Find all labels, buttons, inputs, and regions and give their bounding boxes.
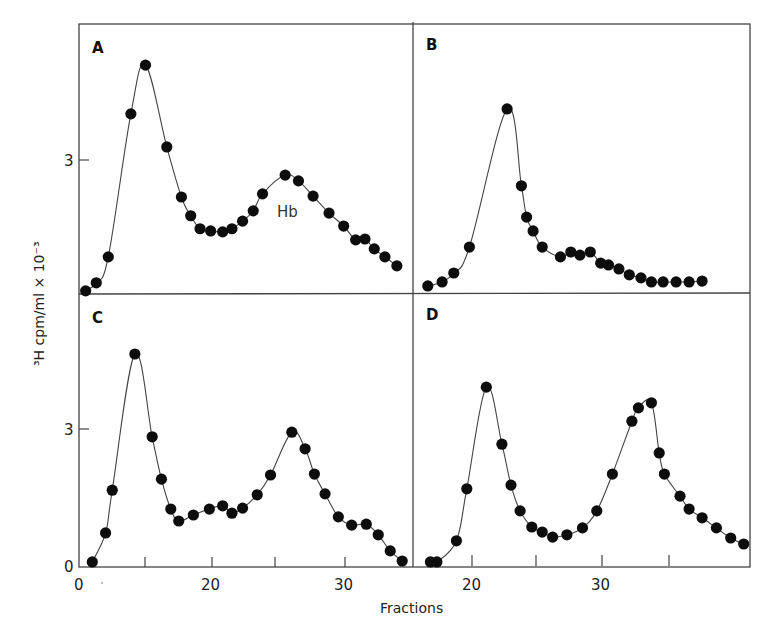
data-point	[204, 503, 215, 514]
data-point	[537, 241, 548, 252]
data-point	[379, 251, 390, 262]
data-point	[147, 431, 158, 442]
data-point	[684, 276, 695, 287]
data-point	[537, 526, 548, 537]
data-point	[140, 60, 151, 71]
x-tick-label-c-0: 0	[74, 576, 84, 594]
data-point	[338, 220, 349, 231]
data-point	[613, 263, 624, 274]
data-point	[481, 382, 492, 393]
data-point	[252, 489, 263, 500]
series-panel-b	[422, 103, 708, 291]
data-point	[658, 276, 669, 287]
data-point	[464, 241, 475, 252]
speck	[101, 582, 103, 584]
fitted-curve	[430, 386, 743, 563]
hb-annotation: Hb	[277, 203, 298, 221]
data-point	[359, 233, 370, 244]
data-point	[437, 276, 448, 287]
data-point	[697, 275, 708, 286]
data-point	[286, 427, 297, 438]
data-point	[100, 527, 111, 538]
data-point	[431, 556, 442, 567]
data-point	[684, 503, 695, 514]
data-point	[369, 243, 380, 254]
data-point	[505, 480, 516, 491]
data-point	[323, 207, 334, 218]
data-point	[574, 250, 585, 261]
y-tick-label-a-3: 3	[64, 152, 74, 170]
data-point	[711, 522, 722, 533]
data-point	[91, 277, 102, 288]
data-point	[103, 251, 114, 262]
x-tick-label-c-20: 20	[201, 576, 220, 594]
data-point	[603, 259, 614, 270]
series-panel-d	[425, 382, 750, 568]
data-point	[659, 468, 670, 479]
data-point	[176, 191, 187, 202]
data-point	[125, 108, 136, 119]
x-tick-label-c-30: 30	[334, 576, 353, 594]
x-tick-label-d-20: 20	[462, 576, 481, 594]
data-point	[161, 141, 172, 152]
data-point	[385, 545, 396, 556]
series-panel-c	[87, 348, 408, 567]
data-point	[461, 483, 472, 494]
data-point	[205, 225, 216, 236]
data-point	[80, 285, 91, 296]
data-point	[502, 103, 513, 114]
data-point	[293, 175, 304, 186]
data-point	[226, 508, 237, 519]
data-point	[185, 210, 196, 221]
data-point	[422, 280, 433, 291]
data-point	[626, 416, 637, 427]
data-point	[361, 519, 372, 530]
panel-label-d: D	[426, 306, 438, 324]
x-axis-title: Fractions	[380, 600, 443, 616]
data-point	[738, 538, 749, 549]
data-point	[307, 191, 318, 202]
data-point	[237, 216, 248, 227]
data-point	[633, 402, 644, 413]
data-point	[521, 212, 532, 223]
data-point	[300, 443, 311, 454]
data-point	[280, 169, 291, 180]
data-point	[346, 520, 357, 531]
panel-label-c: C	[92, 309, 103, 327]
data-point	[555, 251, 566, 262]
panel-frames	[79, 22, 750, 567]
data-point	[585, 246, 596, 257]
data-point	[319, 488, 330, 499]
fitted-curve	[86, 64, 397, 291]
chromatography-figure: A B C D 3 3 0 0 20 30 20 30 Fractions ³H…	[0, 0, 776, 636]
data-point	[87, 556, 98, 567]
data-point	[448, 267, 459, 278]
x-tick-label-d-30: 30	[591, 576, 610, 594]
y-axis-title: ³H cpm/ml × 10⁻³	[31, 241, 47, 366]
data-point	[646, 397, 657, 408]
data-point	[528, 225, 539, 236]
data-point	[333, 511, 344, 522]
y-tick-label-c-0: 0	[64, 558, 74, 576]
data-point	[156, 474, 167, 485]
data-point	[391, 260, 402, 271]
data-point	[697, 512, 708, 523]
data-point	[129, 348, 140, 359]
data-point	[577, 522, 588, 533]
data-point	[607, 468, 618, 479]
data-point	[561, 529, 572, 540]
data-point	[547, 532, 558, 543]
data-point	[188, 509, 199, 520]
data-point	[107, 485, 118, 496]
series-panel-a	[80, 60, 402, 297]
data-point	[516, 180, 527, 191]
data-point	[496, 439, 507, 450]
data-point	[451, 535, 462, 546]
data-point	[173, 515, 184, 526]
y-tick-label-c-3: 3	[64, 421, 74, 439]
data-point	[373, 529, 384, 540]
panel-label-b: B	[426, 36, 437, 54]
data-point	[654, 447, 665, 458]
data-point	[165, 503, 176, 514]
panel-label-a: A	[92, 39, 104, 57]
